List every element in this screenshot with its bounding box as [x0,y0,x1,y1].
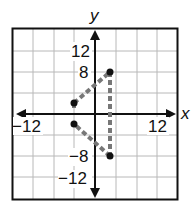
point-b [107,69,114,76]
point-d [71,121,78,128]
y-tick-neg8: −8 [69,147,88,166]
y-axis-label: y [89,6,100,25]
y-axis-down-arrow-icon [90,188,100,198]
y-tick-12: 12 [71,42,90,61]
y-tick-8: 8 [79,63,88,82]
point-c [107,153,114,160]
x-tick-12: 12 [148,117,167,136]
point-a [71,100,78,107]
x-axis-label: x [180,104,190,123]
y-tick-neg12: −12 [58,169,87,188]
coordinate-plane: y x 12 8 −8 −12 −12 12 [0,0,191,204]
y-axis-up-arrow-icon [90,30,100,40]
x-tick-neg12: −12 [12,117,41,136]
